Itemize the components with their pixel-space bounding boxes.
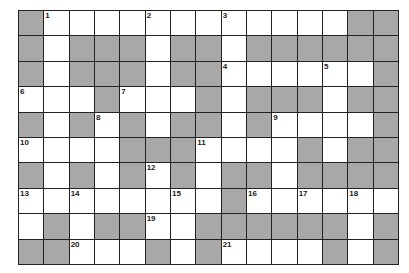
answer-cell[interactable] bbox=[19, 214, 43, 238]
answer-cell[interactable] bbox=[95, 138, 119, 162]
answer-cell[interactable]: 12 bbox=[146, 163, 170, 187]
answer-cell[interactable]: 21 bbox=[222, 240, 246, 264]
block-cell bbox=[348, 163, 372, 187]
block-cell bbox=[374, 138, 398, 162]
answer-cell[interactable]: 17 bbox=[298, 189, 322, 213]
answer-cell[interactable] bbox=[323, 113, 347, 137]
answer-cell[interactable]: 4 bbox=[222, 62, 246, 86]
answer-cell[interactable] bbox=[348, 113, 372, 137]
answer-cell[interactable] bbox=[247, 62, 271, 86]
answer-cell[interactable] bbox=[196, 189, 220, 213]
answer-cell[interactable]: 19 bbox=[146, 214, 170, 238]
answer-cell[interactable] bbox=[44, 87, 68, 111]
clue-number: 1 bbox=[45, 11, 49, 20]
answer-cell[interactable] bbox=[247, 138, 271, 162]
answer-cell[interactable] bbox=[196, 163, 220, 187]
answer-cell[interactable] bbox=[323, 87, 347, 111]
answer-cell[interactable] bbox=[171, 240, 195, 264]
answer-cell[interactable] bbox=[120, 240, 144, 264]
answer-cell[interactable] bbox=[272, 189, 296, 213]
answer-cell[interactable] bbox=[348, 62, 372, 86]
block-cell bbox=[19, 163, 43, 187]
answer-cell[interactable]: 15 bbox=[171, 189, 195, 213]
answer-cell[interactable] bbox=[298, 240, 322, 264]
answer-cell[interactable] bbox=[146, 87, 170, 111]
answer-cell[interactable] bbox=[171, 214, 195, 238]
block-cell bbox=[272, 214, 296, 238]
answer-cell[interactable]: 10 bbox=[19, 138, 43, 162]
answer-cell[interactable]: 11 bbox=[196, 138, 220, 162]
block-cell bbox=[348, 138, 372, 162]
block-cell bbox=[95, 87, 119, 111]
answer-cell[interactable] bbox=[146, 189, 170, 213]
answer-cell[interactable] bbox=[323, 189, 347, 213]
answer-cell[interactable] bbox=[298, 11, 322, 35]
answer-cell[interactable] bbox=[95, 11, 119, 35]
block-cell bbox=[120, 163, 144, 187]
answer-cell[interactable] bbox=[222, 113, 246, 137]
block-cell bbox=[95, 36, 119, 60]
answer-cell[interactable] bbox=[44, 138, 68, 162]
answer-cell[interactable] bbox=[298, 62, 322, 86]
answer-cell[interactable] bbox=[298, 113, 322, 137]
answer-cell[interactable]: 8 bbox=[95, 113, 119, 137]
block-cell bbox=[374, 36, 398, 60]
answer-cell[interactable] bbox=[272, 163, 296, 187]
answer-cell[interactable] bbox=[146, 62, 170, 86]
answer-cell[interactable]: 20 bbox=[70, 240, 94, 264]
answer-cell[interactable] bbox=[272, 240, 296, 264]
block-cell bbox=[146, 138, 170, 162]
answer-cell[interactable] bbox=[70, 138, 94, 162]
answer-cell[interactable] bbox=[222, 138, 246, 162]
answer-cell[interactable] bbox=[272, 11, 296, 35]
answer-cell[interactable]: 13 bbox=[19, 189, 43, 213]
answer-cell[interactable] bbox=[222, 36, 246, 60]
answer-cell[interactable] bbox=[44, 189, 68, 213]
answer-cell[interactable] bbox=[348, 240, 372, 264]
answer-cell[interactable] bbox=[247, 240, 271, 264]
clue-number: 12 bbox=[147, 163, 156, 172]
answer-cell[interactable] bbox=[146, 36, 170, 60]
block-cell bbox=[120, 62, 144, 86]
block-cell bbox=[171, 62, 195, 86]
answer-cell[interactable] bbox=[374, 189, 398, 213]
answer-cell[interactable] bbox=[120, 189, 144, 213]
answer-cell[interactable] bbox=[171, 87, 195, 111]
block-cell bbox=[70, 163, 94, 187]
answer-cell[interactable]: 2 bbox=[146, 11, 170, 35]
clue-number: 19 bbox=[147, 214, 156, 223]
block-cell bbox=[120, 113, 144, 137]
answer-cell[interactable] bbox=[247, 11, 271, 35]
block-cell bbox=[95, 214, 119, 238]
answer-cell[interactable] bbox=[146, 113, 170, 137]
answer-cell[interactable] bbox=[323, 138, 347, 162]
answer-cell[interactable]: 7 bbox=[120, 87, 144, 111]
answer-cell[interactable] bbox=[272, 138, 296, 162]
answer-cell[interactable]: 6 bbox=[19, 87, 43, 111]
answer-cell[interactable] bbox=[222, 87, 246, 111]
answer-cell[interactable]: 18 bbox=[348, 189, 372, 213]
answer-cell[interactable] bbox=[196, 11, 220, 35]
answer-cell[interactable] bbox=[120, 11, 144, 35]
answer-cell[interactable] bbox=[70, 214, 94, 238]
answer-cell[interactable] bbox=[44, 62, 68, 86]
answer-cell[interactable]: 16 bbox=[247, 189, 271, 213]
answer-cell[interactable]: 5 bbox=[323, 62, 347, 86]
answer-cell[interactable] bbox=[44, 113, 68, 137]
answer-cell[interactable] bbox=[323, 11, 347, 35]
answer-cell[interactable] bbox=[95, 163, 119, 187]
answer-cell[interactable]: 9 bbox=[272, 113, 296, 137]
answer-cell[interactable]: 1 bbox=[44, 11, 68, 35]
answer-cell[interactable] bbox=[171, 11, 195, 35]
answer-cell[interactable]: 3 bbox=[222, 11, 246, 35]
answer-cell[interactable] bbox=[348, 214, 372, 238]
answer-cell[interactable] bbox=[95, 240, 119, 264]
answer-cell[interactable] bbox=[272, 62, 296, 86]
answer-cell[interactable] bbox=[95, 189, 119, 213]
answer-cell[interactable] bbox=[70, 11, 94, 35]
answer-cell[interactable] bbox=[44, 36, 68, 60]
block-cell bbox=[196, 240, 220, 264]
answer-cell[interactable] bbox=[70, 87, 94, 111]
answer-cell[interactable]: 14 bbox=[70, 189, 94, 213]
answer-cell[interactable] bbox=[44, 163, 68, 187]
